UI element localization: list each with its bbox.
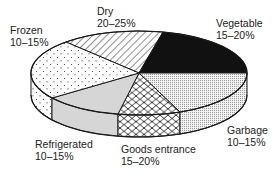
label-frozen-name: Frozen [10, 24, 49, 36]
label-dry: Dry 20–25% [97, 5, 136, 29]
label-vegetable: Vegetable 15–20% [216, 17, 263, 41]
label-vegetable-range: 15–20% [216, 29, 263, 41]
label-vegetable-name: Vegetable [216, 17, 263, 29]
label-goods-entrance: Goods entrance 15–20% [121, 143, 196, 167]
label-dry-range: 20–25% [97, 17, 136, 29]
label-goods-range: 15–20% [121, 155, 196, 167]
label-garbage-range: 10–15% [227, 136, 268, 148]
label-goods-name: Goods entrance [121, 143, 196, 155]
label-refrigerated-range: 10–15% [35, 150, 93, 162]
label-refrigerated: Refrigerated 10–15% [35, 138, 93, 162]
label-refrigerated-name: Refrigerated [35, 138, 93, 150]
label-garbage: Garbage 10–15% [227, 124, 268, 148]
label-dry-name: Dry [97, 5, 136, 17]
label-garbage-name: Garbage [227, 124, 268, 136]
wall-goods [118, 112, 180, 137]
label-frozen-range: 10–15% [10, 36, 49, 48]
label-frozen: Frozen 10–15% [10, 24, 49, 48]
